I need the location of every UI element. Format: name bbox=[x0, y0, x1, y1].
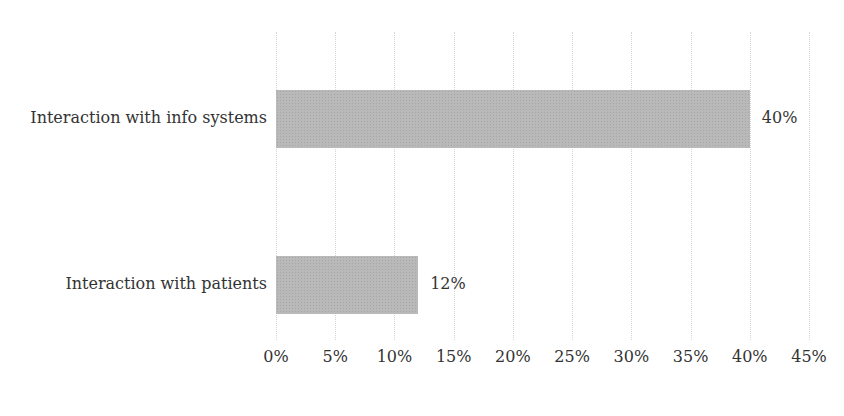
x-tick-label: 5% bbox=[305, 347, 365, 366]
x-tick-label: 10% bbox=[364, 347, 424, 366]
bar bbox=[276, 90, 750, 148]
value-label: 40% bbox=[762, 108, 798, 127]
x-tick-label: 25% bbox=[542, 347, 602, 366]
gridline bbox=[809, 32, 810, 340]
x-tick-label: 35% bbox=[661, 347, 721, 366]
x-tick-label: 20% bbox=[483, 347, 543, 366]
bar bbox=[276, 256, 418, 314]
x-tick-label: 30% bbox=[601, 347, 661, 366]
bar-chart: Interaction with info systems40%Interact… bbox=[0, 0, 844, 416]
gridline bbox=[691, 32, 692, 340]
gridline bbox=[454, 32, 455, 340]
x-tick-label: 45% bbox=[779, 347, 839, 366]
category-label: Interaction with info systems bbox=[30, 108, 267, 127]
gridline bbox=[572, 32, 573, 340]
gridline bbox=[631, 32, 632, 340]
gridline bbox=[513, 32, 514, 340]
gridline bbox=[750, 32, 751, 340]
x-tick-label: 0% bbox=[246, 347, 306, 366]
value-label: 12% bbox=[430, 274, 466, 293]
x-tick-label: 15% bbox=[424, 347, 484, 366]
x-tick-label: 40% bbox=[720, 347, 780, 366]
category-label: Interaction with patients bbox=[65, 274, 267, 293]
